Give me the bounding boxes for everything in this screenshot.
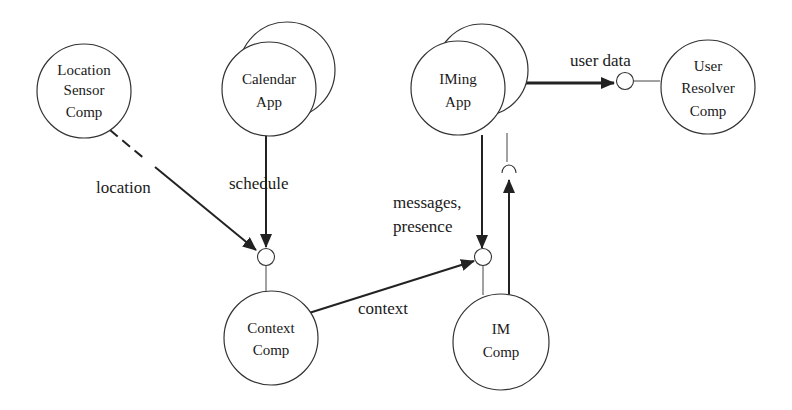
- node-user-resolver-comp[interactable]: User Resolver Comp: [661, 40, 755, 134]
- node-calendar-app[interactable]: Calendar App: [222, 22, 335, 136]
- node-label: Sensor: [64, 82, 105, 98]
- node-context-comp[interactable]: Context Comp: [224, 291, 318, 385]
- node-label: IM: [492, 321, 510, 337]
- node-label: Comp: [66, 104, 103, 120]
- edge-label-messages: messages,: [393, 193, 461, 212]
- node-im-comp[interactable]: IM Comp: [453, 294, 549, 390]
- component-diagram: Location Sensor Comp Calendar App IMing …: [0, 0, 792, 410]
- node-label: IMing: [439, 71, 477, 87]
- node-label: App: [256, 94, 282, 110]
- node-location-sensor-comp[interactable]: Location Sensor Comp: [37, 44, 131, 138]
- edge-label-presence: presence: [393, 217, 452, 236]
- node-label: Comp: [253, 342, 290, 358]
- im-comp-port: [475, 249, 492, 266]
- edge-label-schedule: schedule: [229, 174, 288, 193]
- node-label: Comp: [483, 344, 520, 360]
- edge-label-location: location: [96, 178, 151, 197]
- node-label: Resolver: [681, 80, 734, 96]
- iming-port: [502, 165, 516, 173]
- node-label: Comp: [690, 103, 727, 119]
- edge-label-context: context: [358, 299, 408, 318]
- node-label: Context: [247, 320, 295, 336]
- node-label: App: [445, 94, 471, 110]
- edge-label-user-data: user data: [570, 51, 631, 70]
- user-resolver-port: [617, 73, 634, 90]
- node-label: User: [694, 58, 722, 74]
- node-label: Calendar: [242, 71, 296, 87]
- context-comp-port: [258, 249, 275, 266]
- node-iming-app[interactable]: IMing App: [411, 24, 528, 135]
- node-label: Location: [57, 62, 111, 78]
